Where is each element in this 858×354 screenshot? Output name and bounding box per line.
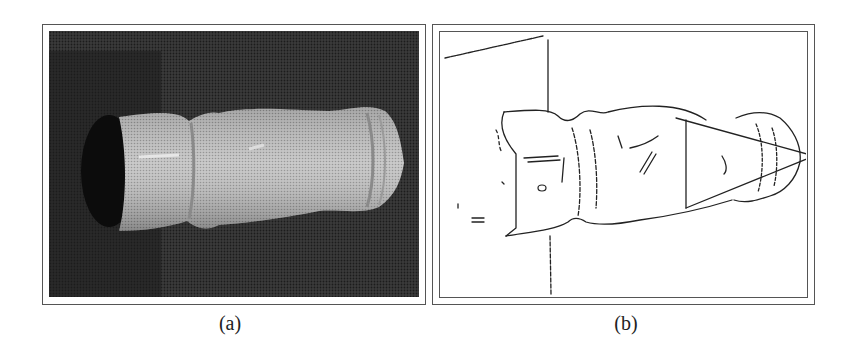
edge-map-image [440,32,806,296]
panel-b-drawing [439,31,808,298]
panel-a-photo [49,31,419,297]
vase-photo-image [49,31,419,297]
panel-a-frame [42,24,426,305]
panel-b-frame [432,24,815,305]
caption-b: (b) [586,312,666,335]
caption-a: (a) [190,312,270,335]
